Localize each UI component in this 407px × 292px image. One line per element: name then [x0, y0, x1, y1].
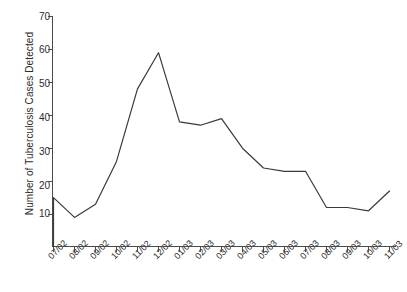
- data-series-line: [54, 53, 390, 247]
- y-axis-ticks: [48, 17, 53, 215]
- line-chart: Number of Tuberculosis Cases Detected 70…: [0, 0, 407, 292]
- x-axis-ticks: [54, 247, 390, 252]
- chart-canvas: [0, 0, 407, 292]
